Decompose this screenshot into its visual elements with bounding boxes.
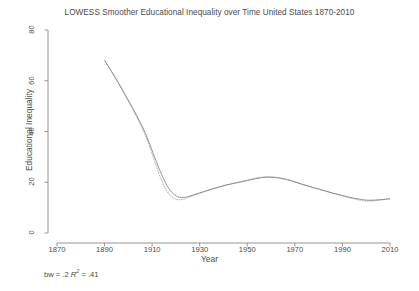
axes-group <box>45 30 391 247</box>
chart-figure: LOWESS Smoother Educational Inequality o… <box>0 0 419 291</box>
series-line-lowess-secondary <box>105 60 390 201</box>
plot-area <box>0 0 419 291</box>
series-line-lowess-smooth <box>105 60 390 200</box>
data-series-group <box>105 60 390 201</box>
